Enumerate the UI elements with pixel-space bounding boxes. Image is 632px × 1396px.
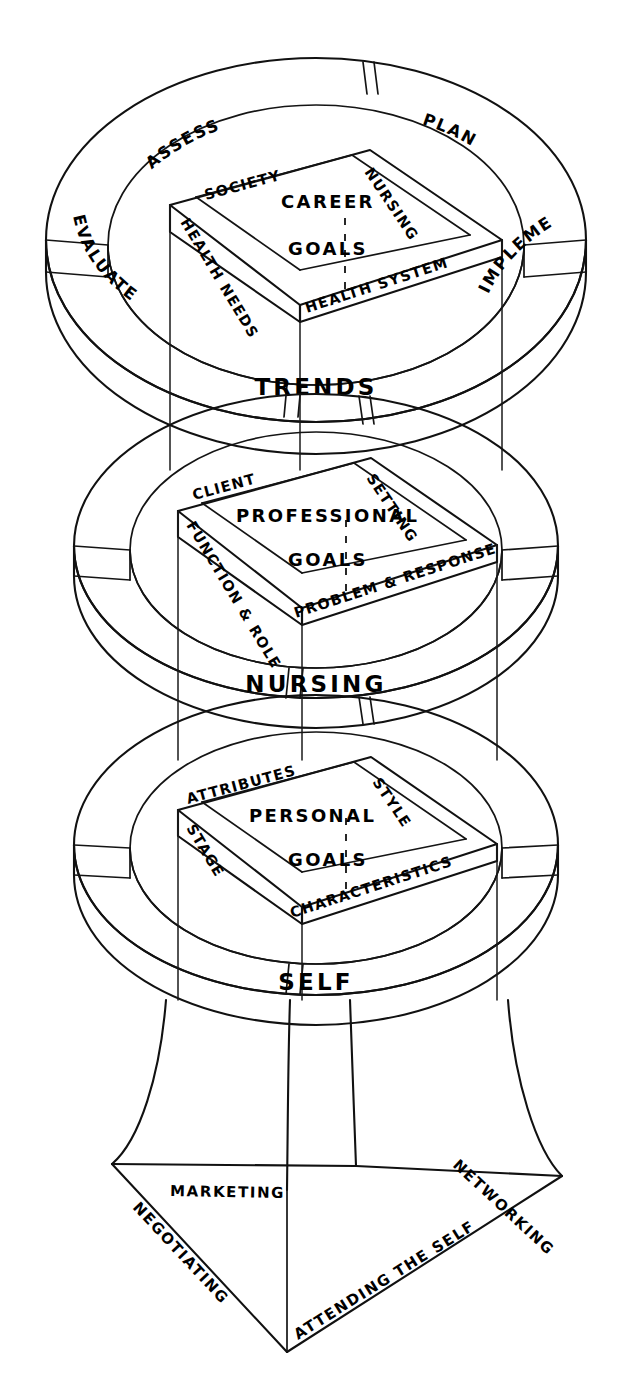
base-face-attending-the-self: ATTENDING THE SELF xyxy=(291,1217,479,1344)
tier-nursing: CLIENT SETTING PROBLEM & RESPONSE FUNCTI… xyxy=(74,394,558,760)
diagram-canvas: ASSESS PLAN IMPLEMENT EVALUATE SOCIETY N… xyxy=(0,0,632,1396)
base-face-negotiating: NEGOTIATING xyxy=(129,1198,232,1307)
self-face-attributes: ATTRIBUTES xyxy=(185,762,298,807)
self-core-line1: PERSONAL xyxy=(249,805,376,826)
trends-face-society: SOCIETY xyxy=(203,167,283,203)
self-outer-wall xyxy=(74,845,558,1025)
trends-face-health-system: HEALTH SYSTEM xyxy=(303,254,450,315)
nursing-face-function-role: FUNCTION & ROLE xyxy=(183,518,284,671)
nursing-core-line2: GOALS xyxy=(288,549,368,570)
nursing-outer-wall xyxy=(74,546,558,728)
self-face-stage: STAGE xyxy=(183,821,227,880)
trends-core-line2: GOALS xyxy=(288,238,368,259)
ring-label-nursing: NURSING xyxy=(245,671,386,697)
nursing-core-line1: PROFESSIONAL xyxy=(236,505,419,526)
base-platform: MARKETING NETWORKING NEGOTIATING ATTENDI… xyxy=(112,1000,562,1352)
trends-segment-evaluate-label: EVALUATE xyxy=(69,212,141,305)
base-skirt-left xyxy=(112,1000,166,1164)
self-spoke-walls xyxy=(74,697,558,994)
base-edge-marketing xyxy=(112,1164,356,1166)
trends-segment-assess-label: ASSESS xyxy=(142,115,223,172)
base-skirt-right xyxy=(508,1000,562,1176)
base-skirt-center-left xyxy=(287,1000,290,1190)
self-outer-top-ellipse xyxy=(74,695,558,995)
trends-segment-plan-label: PLAN xyxy=(420,110,480,150)
base-face-marketing: MARKETING xyxy=(170,1182,285,1202)
ring-label-self: SELF xyxy=(278,969,353,995)
self-inner-top-ellipse xyxy=(130,732,502,964)
tier-self: ATTRIBUTES STYLE CHARACTERISTICS STAGE P… xyxy=(74,695,558,1025)
base-face-networking: NETWORKING xyxy=(449,1156,558,1259)
tier-trends: ASSESS PLAN IMPLEMENT EVALUATE SOCIETY N… xyxy=(0,0,586,470)
base-skirt-center-right xyxy=(350,1000,356,1166)
trends-core-line1: CAREER xyxy=(281,191,375,212)
trends-segment-plan: PLAN xyxy=(420,110,480,150)
self-core-line2: GOALS xyxy=(288,849,368,870)
trends-segment-assess: ASSESS xyxy=(142,115,223,172)
career-model-diagram: ASSESS PLAN IMPLEMENT EVALUATE SOCIETY N… xyxy=(0,0,632,1396)
trends-segment-evaluate: EVALUATE xyxy=(69,212,141,305)
